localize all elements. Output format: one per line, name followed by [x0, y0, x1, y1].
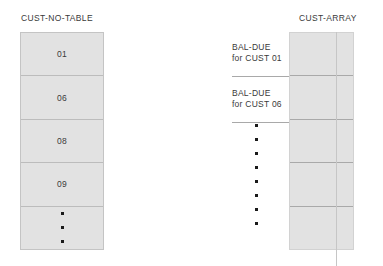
array-cell: [290, 207, 353, 249]
table-row: 06: [21, 76, 103, 119]
cust-no-table: 01 06 08 09: [20, 32, 104, 250]
ellipsis-dot: [255, 152, 258, 155]
ellipsis-dot: [255, 138, 258, 141]
cust-array-rows: [290, 33, 353, 249]
diagram-canvas: CUST-NO-TABLE 01 06 08 09 BAL-DUE for CU…: [0, 0, 383, 266]
array-cell: [290, 76, 353, 119]
array-divider-line: [336, 32, 337, 266]
cust-no-value: 09: [57, 179, 67, 189]
ellipsis-dot: [255, 124, 258, 127]
ellipsis-dot: [255, 208, 258, 211]
cust-array: [289, 32, 354, 250]
ellipsis-dot: [255, 166, 258, 169]
middle-vertical-ellipsis-icon: [253, 124, 259, 225]
ellipsis-dot: [61, 212, 64, 215]
annotation-line-1: BAL-DUE: [232, 88, 271, 99]
annotation-line-1: BAL-DUE: [232, 42, 271, 53]
cust-no-value: 01: [57, 49, 67, 59]
ellipsis-dot: [255, 222, 258, 225]
table-row-ellipsis: [21, 207, 103, 249]
array-cell: [290, 120, 353, 163]
table-row: 08: [21, 120, 103, 163]
ellipsis-dot: [255, 194, 258, 197]
cust-no-value: 06: [57, 93, 67, 103]
array-cell: [290, 33, 353, 76]
ellipsis-dot: [61, 226, 64, 229]
annotation-line-2: for CUST 06: [232, 99, 282, 110]
cust-no-table-rows: 01 06 08 09: [21, 33, 103, 249]
annotation-line-2: for CUST 01: [232, 53, 282, 64]
table-row: 01: [21, 33, 103, 76]
array-cell: [290, 163, 353, 206]
cust-no-table-title: CUST-NO-TABLE: [21, 13, 93, 23]
ellipsis-dot: [61, 240, 64, 243]
table-row: 09: [21, 163, 103, 206]
vertical-ellipsis-icon: [21, 207, 103, 249]
ellipsis-dot: [255, 180, 258, 183]
cust-no-value: 08: [57, 136, 67, 146]
cust-array-title: CUST-ARRAY: [299, 13, 357, 23]
